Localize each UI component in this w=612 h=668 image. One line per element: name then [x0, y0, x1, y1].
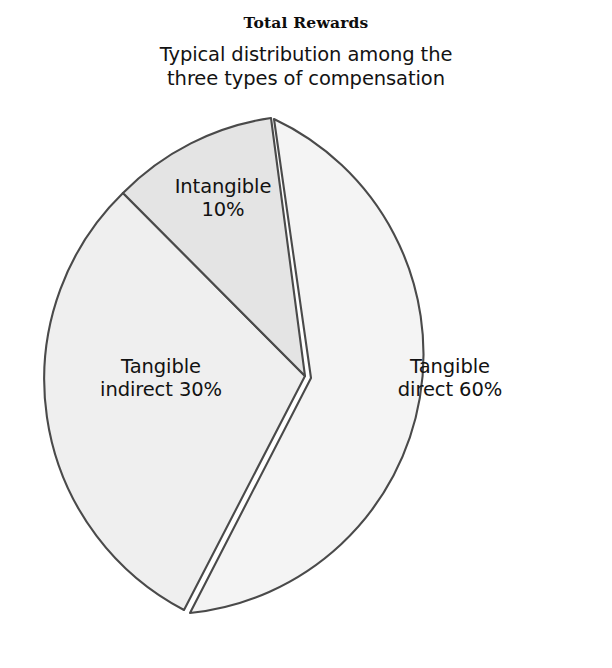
pie-label-intangible: Intangible 10%	[128, 175, 318, 222]
pie-label-tangible-indirect-name: Tangible	[56, 355, 266, 378]
pie-label-tangible-direct-value: direct 60%	[350, 378, 550, 401]
pie-label-intangible-value: 10%	[128, 198, 318, 221]
pie-label-tangible-direct-name: Tangible	[350, 355, 550, 378]
pie-svg	[0, 0, 612, 668]
pie-chart-figure: Total Rewards Typical distribution among…	[0, 0, 612, 668]
pie-label-intangible-name: Intangible	[128, 175, 318, 198]
pie-label-tangible-indirect-value: indirect 30%	[56, 378, 266, 401]
pie-label-tangible-indirect: Tangible indirect 30%	[56, 355, 266, 402]
pie-label-tangible-direct: Tangible direct 60%	[350, 355, 550, 402]
